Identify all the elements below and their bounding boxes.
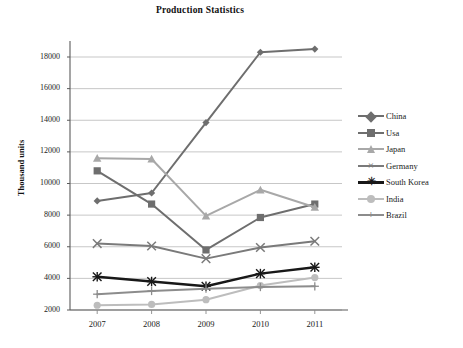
legend-item-germany[interactable]: ×Germany [358, 158, 461, 175]
x-tick-label: 2008 [129, 319, 175, 329]
legend-key: ✳ [358, 175, 384, 189]
x-tick-label: 2007 [74, 319, 120, 329]
x-tick-label: 2010 [237, 319, 283, 329]
legend-key [358, 192, 384, 206]
legend-key: × [358, 159, 384, 173]
legend-marker-circle-icon [367, 195, 375, 203]
legend-key [358, 142, 384, 156]
legend-marker-diamond-icon [365, 111, 376, 122]
legend-item-japan[interactable]: Japan [358, 141, 461, 158]
legend-label: Germany [384, 161, 418, 171]
chart-legend: ChinaUsaJapan×Germany✳South KoreaIndia+B… [358, 108, 461, 224]
legend-marker-x-icon: × [365, 158, 377, 172]
legend-label: India [384, 194, 403, 204]
legend-key: + [358, 208, 384, 222]
x-tick-label: 2009 [183, 319, 229, 329]
legend-marker-square-icon [367, 129, 375, 137]
legend-label: Brazil [384, 210, 407, 220]
legend-item-south-korea[interactable]: ✳South Korea [358, 174, 461, 191]
legend-label: Japan [384, 144, 405, 154]
legend-item-usa[interactable]: Usa [358, 125, 461, 142]
legend-label: South Korea [384, 177, 429, 187]
legend-item-brazil[interactable]: +Brazil [358, 207, 461, 224]
legend-marker-asterisk-icon: ✳ [365, 174, 377, 188]
legend-label: Usa [384, 128, 399, 138]
x-tick-label: 2011 [292, 319, 338, 329]
production-statistics-chart: Production Statistics Thousand units 200… [0, 0, 463, 348]
legend-key [358, 126, 384, 140]
legend-item-india[interactable]: India [358, 191, 461, 208]
legend-marker-triangle-icon [367, 145, 375, 153]
legend-key [358, 109, 384, 123]
legend-label: China [384, 111, 406, 121]
legend-item-china[interactable]: China [358, 108, 461, 125]
legend-marker-plus-icon: + [365, 207, 377, 221]
